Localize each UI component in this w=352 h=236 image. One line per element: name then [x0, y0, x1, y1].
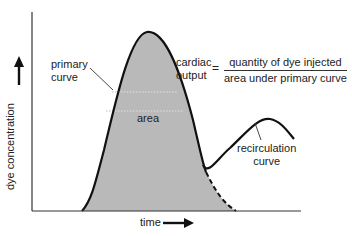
primary-curve-label: primary curve [51, 58, 88, 84]
recirculation-curve-label: recirculation curve [237, 142, 296, 168]
area-label: area [137, 112, 159, 125]
formula-fraction: quantity of dye injected area under prim… [224, 56, 347, 85]
formula-numerator: quantity of dye injected [224, 56, 347, 71]
formula-equals: = [212, 61, 219, 75]
recirculation-label-line2: curve [253, 155, 280, 167]
right-arrow-icon [163, 218, 194, 228]
recirculation-label-line1: recirculation [237, 142, 296, 154]
x-axis-label: time [140, 216, 161, 229]
formula-lhs: cardiac output [176, 56, 211, 82]
y-axis-label: dye concentration [4, 103, 16, 190]
formula-lhs-line1: cardiac [176, 56, 211, 68]
diagram-canvas [0, 0, 352, 236]
up-arrow-icon [14, 56, 24, 85]
primary-curve-leader [90, 68, 113, 90]
formula-denominator: area under primary curve [224, 71, 347, 85]
formula-lhs-line2: output [176, 69, 207, 81]
primary-curve-label-line1: primary [51, 58, 88, 70]
recirculation-leader [255, 123, 261, 140]
primary-curve-label-line2: curve [51, 71, 78, 83]
